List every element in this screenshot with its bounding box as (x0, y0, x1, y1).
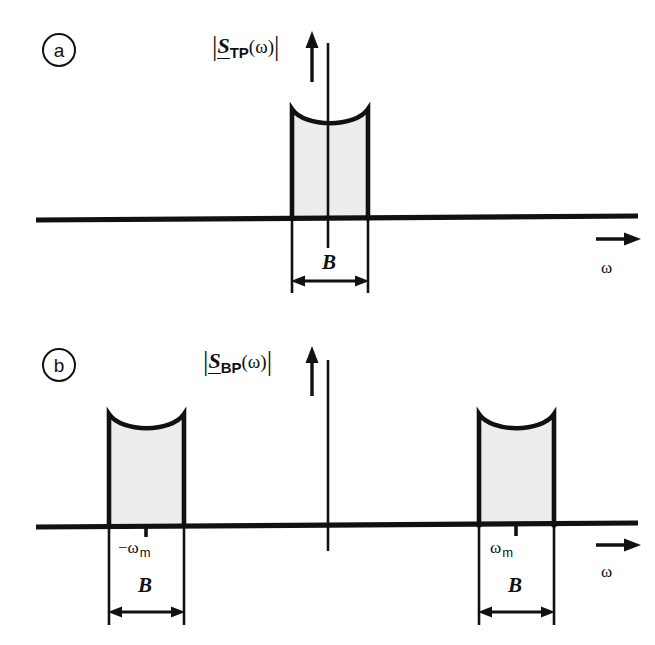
negative-sideband-fill (109, 414, 184, 525)
y-axis-arrow-a-icon (306, 31, 319, 82)
x-axis-label-a: ω (601, 258, 612, 278)
x-axis-label-b: ω (601, 562, 612, 582)
abs-bar-right-b: | (267, 346, 272, 376)
positive-sideband-fill (479, 414, 554, 525)
y-axis-label-b: |SBP(ω)| (203, 346, 272, 377)
signal-symbol-a: S (217, 33, 229, 59)
x-axis-a (36, 216, 638, 220)
panel-a (36, 31, 641, 293)
bandwidth-label-a: B (322, 250, 336, 275)
signal-argument-a: (ω) (249, 36, 274, 57)
bandwidth-arrow-b2 (478, 607, 555, 618)
bandwidth-label-b-positive: B (508, 573, 522, 598)
y-axis-arrow-b-icon (306, 346, 319, 396)
tick-label-positive-omega-m-sub: m (501, 545, 513, 560)
x-axis-arrow-b-icon (596, 539, 641, 552)
bandwidth-arrow-a (291, 276, 369, 287)
tick-label-positive-omega-m-base: ω (490, 538, 501, 557)
tick-label-positive-omega-m: ωm (490, 538, 513, 560)
panel-tag-a: a (42, 33, 76, 67)
tick-label-negative-omega-m-sub: m (139, 545, 151, 560)
y-axis-label-a: |STP(ω)| (212, 31, 279, 62)
abs-bar-right-a: | (274, 31, 279, 61)
tick-label-negative-omega-m-base: −ω (118, 538, 139, 557)
spectrum-figure (0, 0, 655, 645)
signal-argument-b: (ω) (242, 351, 267, 372)
panel-b (36, 346, 641, 625)
panel-tag-b: b (42, 348, 76, 382)
bandwidth-label-b-negative: B (138, 573, 152, 598)
signal-subscript-b: BP (221, 359, 242, 376)
signal-subscript-a: TP (230, 44, 249, 61)
signal-symbol-b: S (208, 348, 220, 374)
x-axis-arrow-a-icon (596, 233, 641, 246)
tick-label-negative-omega-m: −ωm (118, 538, 151, 560)
bandwidth-arrow-b1 (108, 607, 185, 618)
